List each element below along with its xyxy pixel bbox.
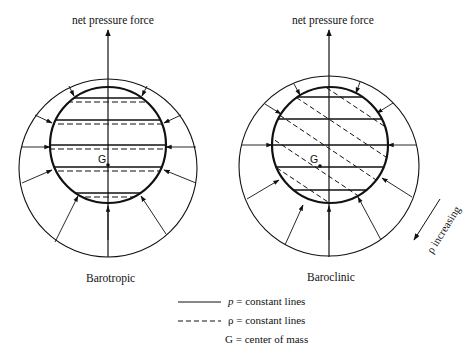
- center-of-mass-dot: [106, 163, 110, 167]
- legend-center: G = center of mass: [225, 333, 308, 345]
- baroclinic-diagram: [239, 30, 440, 257]
- legend-solid-text: = constant lines: [236, 295, 305, 307]
- baroclinic-center-label: G: [310, 153, 318, 165]
- barotropic-caption: Barotropic: [86, 272, 135, 284]
- legend-solid: p = constant lines: [228, 295, 305, 307]
- legend-dashed-text: = constant lines: [236, 314, 305, 326]
- legend-dashed-symbol: ρ: [228, 314, 234, 326]
- legend-center-symbol: G: [225, 333, 233, 345]
- barotropic-diagram: [19, 30, 197, 257]
- legend-center-text: = center of mass: [236, 333, 308, 345]
- barotropic-force-label: net pressure force: [72, 14, 154, 26]
- baroclinic-force-label: net pressure force: [292, 14, 374, 26]
- baroclinic-caption: Baroclinic: [307, 271, 355, 283]
- legend-dashed: ρ = constant lines: [228, 314, 305, 326]
- center-of-mass-dot: [318, 164, 322, 168]
- barotropic-center-label: G: [98, 153, 106, 165]
- legend-solid-symbol: p: [228, 295, 234, 307]
